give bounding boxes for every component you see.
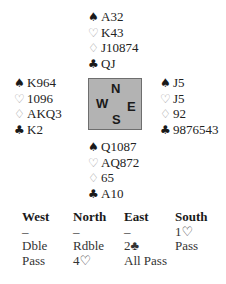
spade-icon: ♠ (88, 140, 101, 156)
header-south: South (175, 210, 226, 225)
east-hearts: ♡J5 (160, 91, 219, 107)
bid-cell: Pass (175, 239, 226, 254)
north-hearts: ♡K43 (88, 25, 139, 41)
south-hearts: ♡AQ872 (88, 155, 139, 171)
bidding-row: – – – 1♡ (22, 225, 226, 240)
north-hand: ♠A32 ♡K43 ♢J10874 ♣QJ (88, 9, 139, 71)
diamond-icon: ♢ (88, 41, 101, 57)
bid-cell: 2♣ (124, 239, 175, 254)
bid-cell: – (22, 225, 73, 240)
diamond-icon: ♢ (14, 107, 27, 123)
bid-cell: – (124, 225, 175, 240)
west-hearts-cards: 1096 (27, 91, 53, 106)
south-clubs-cards: A10 (101, 186, 123, 201)
east-hearts-cards: J5 (173, 91, 185, 106)
north-spades: ♠A32 (88, 9, 139, 25)
header-west: West (22, 210, 73, 225)
bid-cell: 4♡ (73, 254, 124, 269)
south-diamonds-cards: 65 (101, 170, 114, 185)
club-icon: ♣ (88, 57, 101, 73)
compass-east-label: E (127, 99, 136, 114)
west-spades-cards: K964 (27, 75, 56, 90)
bidding-table: West North East South – – – 1♡ Dble Rdbl… (22, 210, 226, 268)
north-diamonds: ♢J10874 (88, 40, 139, 56)
compass-south-label: S (112, 112, 121, 127)
heart-icon: ♡ (160, 92, 173, 108)
east-clubs-cards: 9876543 (173, 122, 219, 137)
bid-cell: – (73, 225, 124, 240)
bidding-header-row: West North East South (22, 210, 226, 225)
bid-cell: Rdble (73, 239, 124, 254)
south-spades-cards: Q1087 (101, 139, 136, 154)
bid-cell (175, 254, 226, 269)
west-hearts: ♡1096 (14, 91, 62, 107)
club-icon: ♣ (160, 123, 173, 139)
bidding-row: Pass 4♡ All Pass (22, 254, 226, 269)
header-east: East (124, 210, 175, 225)
compass-west-label: W (96, 96, 108, 111)
east-diamonds: ♢92 (160, 106, 219, 122)
north-hearts-cards: K43 (101, 25, 123, 40)
north-clubs-cards: QJ (101, 56, 115, 71)
south-hearts-cards: AQ872 (101, 155, 139, 170)
west-clubs: ♣K2 (14, 122, 62, 138)
compass-box: N W E S (88, 78, 142, 130)
bid-cell: Dble (22, 239, 73, 254)
club-icon: ♣ (14, 123, 27, 139)
south-clubs: ♣A10 (88, 186, 139, 202)
west-diamonds-cards: AKQ3 (27, 106, 62, 121)
bid-cell: 1♡ (175, 225, 226, 240)
diamond-icon: ♢ (88, 171, 101, 187)
south-hand: ♠Q1087 ♡AQ872 ♢65 ♣A10 (88, 139, 139, 201)
north-diamonds-cards: J10874 (101, 40, 139, 55)
spade-icon: ♠ (14, 76, 27, 92)
west-hand: ♠K964 ♡1096 ♢AKQ3 ♣K2 (14, 75, 62, 137)
heart-icon: ♡ (88, 156, 101, 172)
east-spades: ♠J5 (160, 75, 219, 91)
bid-cell: Pass (22, 254, 73, 269)
spade-icon: ♠ (160, 76, 173, 92)
heart-icon: ♡ (88, 26, 101, 42)
north-spades-cards: A32 (101, 9, 123, 24)
compass-north-label: N (111, 81, 120, 96)
diamond-icon: ♢ (160, 107, 173, 123)
east-spades-cards: J5 (173, 75, 185, 90)
east-diamonds-cards: 92 (173, 106, 186, 121)
east-clubs: ♣9876543 (160, 122, 219, 138)
north-clubs: ♣QJ (88, 56, 139, 72)
bid-cell: All Pass (124, 254, 175, 269)
west-clubs-cards: K2 (27, 122, 43, 137)
west-spades: ♠K964 (14, 75, 62, 91)
west-diamonds: ♢AKQ3 (14, 106, 62, 122)
bidding-row: Dble Rdble 2♣ Pass (22, 239, 226, 254)
south-diamonds: ♢65 (88, 170, 139, 186)
club-icon: ♣ (88, 187, 101, 203)
heart-icon: ♡ (14, 92, 27, 108)
east-hand: ♠J5 ♡J5 ♢92 ♣9876543 (160, 75, 219, 137)
spade-icon: ♠ (88, 10, 101, 26)
south-spades: ♠Q1087 (88, 139, 139, 155)
header-north: North (73, 210, 124, 225)
